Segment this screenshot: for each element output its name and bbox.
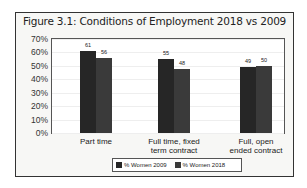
plot-area: 0%10%20%30%40%50%60%70%6156Part time5548… (51, 38, 285, 134)
data-label: 61 (85, 42, 91, 48)
data-label: 56 (101, 49, 107, 55)
bar (80, 51, 96, 133)
y-tick-label: 20% (20, 101, 48, 111)
y-tick-label: 50% (20, 61, 48, 71)
y-tick-label: 30% (20, 88, 48, 98)
data-label: 50 (261, 57, 267, 63)
y-tick-label: 70% (20, 34, 48, 44)
bar (96, 58, 112, 133)
legend-item: % Women 2018 (175, 162, 226, 168)
data-label: 49 (245, 58, 251, 64)
legend-label: % Women 2018 (183, 162, 226, 168)
x-category-label: Part time (56, 137, 136, 146)
legend-label: % Women 2009 (124, 162, 167, 168)
x-category-label: Full time, fixedterm contract (134, 137, 214, 155)
bar (158, 59, 174, 133)
gridline (52, 133, 284, 134)
data-label: 55 (163, 50, 169, 56)
y-tick-label: 60% (20, 47, 48, 57)
gridline (52, 39, 284, 40)
x-category-label: Full, openended contract (216, 137, 296, 155)
chart-frame: Figure 3.1: Conditions of Employment 201… (15, 12, 294, 177)
legend-item: % Women 2009 (116, 162, 167, 168)
bar (256, 66, 272, 133)
y-tick-label: 0% (20, 128, 48, 138)
data-label: 48 (179, 60, 185, 66)
legend-swatch (175, 162, 181, 168)
legend-swatch (116, 162, 122, 168)
bar (240, 67, 256, 133)
chart-legend: % Women 2009% Women 2018 (112, 158, 242, 172)
chart-title: Figure 3.1: Conditions of Employment 201… (16, 15, 293, 27)
y-tick-label: 40% (20, 74, 48, 84)
bar (174, 69, 190, 133)
y-tick-label: 10% (20, 115, 48, 125)
